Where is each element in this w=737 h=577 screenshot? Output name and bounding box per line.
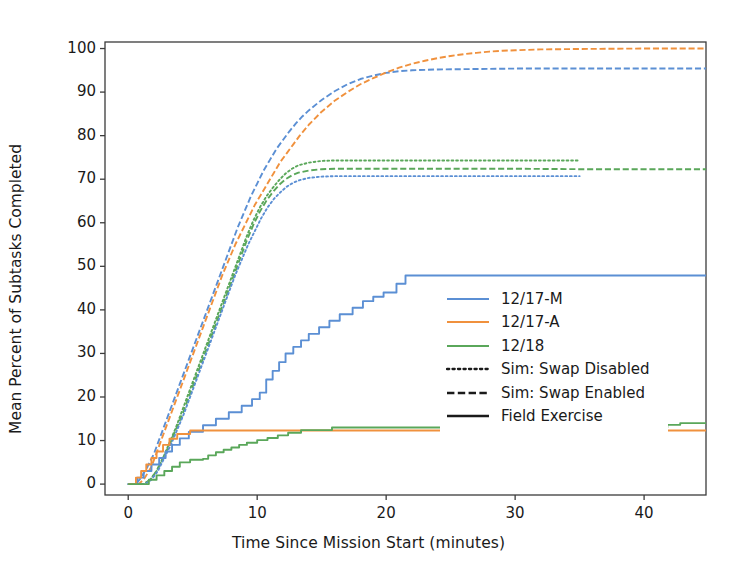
legend-swatch-icon xyxy=(446,386,490,400)
y-tick-label: 0 xyxy=(50,474,96,492)
y-axis-label: Mean Percent of Subtasks Completed xyxy=(7,144,25,434)
y-tick-label: 50 xyxy=(50,256,96,274)
y-tick-label: 60 xyxy=(50,213,96,231)
legend-item: Sim: Swap Disabled xyxy=(446,358,662,382)
legend-swatch-icon xyxy=(446,409,490,423)
legend-label: 12/17-M xyxy=(501,290,563,308)
chart-legend: 12/17-M12/17-A12/18Sim: Swap DisabledSim… xyxy=(440,283,668,432)
legend-swatch-icon xyxy=(446,339,490,353)
x-tick-label: 20 xyxy=(363,504,409,522)
x-tick-label: 40 xyxy=(621,504,667,522)
series-line xyxy=(128,423,706,484)
legend-label: Field Exercise xyxy=(501,407,603,425)
y-tick-label: 100 xyxy=(50,39,96,57)
chart-figure: Mean Percent of Subtasks Completed Time … xyxy=(0,0,737,577)
legend-item: 12/18 xyxy=(446,334,662,358)
legend-swatch-icon xyxy=(446,315,490,329)
y-tick-label: 40 xyxy=(50,300,96,318)
y-tick-label: 30 xyxy=(50,343,96,361)
legend-swatch-icon xyxy=(446,292,490,306)
y-tick-label: 80 xyxy=(50,126,96,144)
legend-swatch-icon xyxy=(446,362,490,376)
y-tick-label: 10 xyxy=(50,431,96,449)
y-axis-label-container: Mean Percent of Subtasks Completed xyxy=(0,0,31,577)
legend-label: Sim: Swap Disabled xyxy=(501,360,650,378)
x-tick-label: 0 xyxy=(105,504,151,522)
legend-item: 12/17-M xyxy=(446,287,662,311)
legend-label: Sim: Swap Enabled xyxy=(501,384,645,402)
x-axis-label: Time Since Mission Start (minutes) xyxy=(0,534,737,552)
series-line xyxy=(128,431,706,485)
y-tick-label: 70 xyxy=(50,169,96,187)
legend-item: Sim: Swap Enabled xyxy=(446,381,662,405)
x-tick-label: 10 xyxy=(234,504,280,522)
y-tick-label: 90 xyxy=(50,82,96,100)
y-tick-label: 20 xyxy=(50,387,96,405)
legend-label: 12/17-A xyxy=(501,313,560,331)
legend-label: 12/18 xyxy=(501,337,544,355)
legend-item: 12/17-A xyxy=(446,311,662,335)
legend-item: Field Exercise xyxy=(446,405,662,429)
x-tick-label: 30 xyxy=(492,504,538,522)
